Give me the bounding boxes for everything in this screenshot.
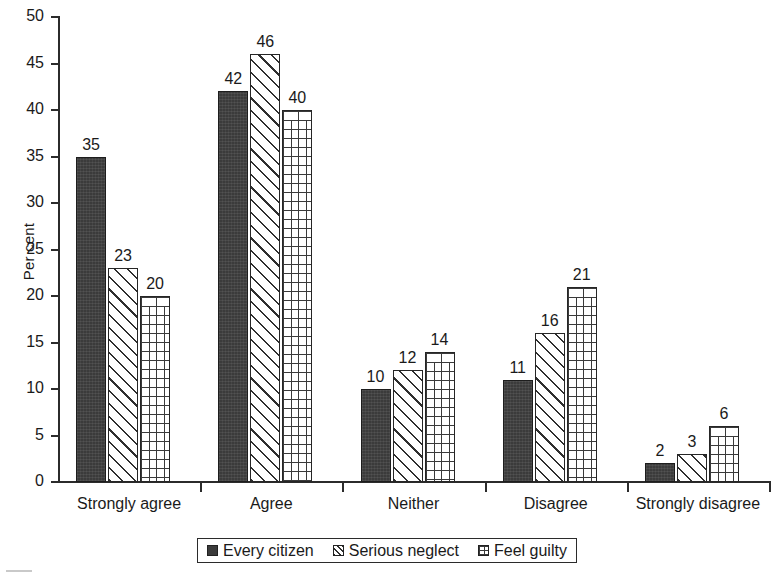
bar — [76, 157, 106, 483]
bar — [250, 54, 280, 482]
x-tick-mark — [627, 483, 629, 492]
y-tick-label: 25 — [0, 240, 44, 258]
legend-swatch-icon — [478, 545, 489, 556]
x-category-label: Neither — [332, 495, 494, 513]
bar-value-label: 20 — [130, 275, 180, 293]
bar-value-label: 21 — [557, 266, 607, 284]
chart-legend: Every citizenSerious neglectFeel guilty — [197, 538, 577, 563]
plot-area: 352320424640101214111621236 — [58, 17, 769, 482]
bar — [645, 463, 675, 482]
bar — [282, 110, 312, 482]
y-tick-label: 30 — [0, 193, 44, 211]
bar-value-label: 46 — [240, 33, 290, 51]
bar — [425, 352, 455, 482]
legend-swatch-icon — [207, 545, 218, 556]
bar — [108, 268, 138, 482]
x-category-label: Strongly disagree — [617, 495, 775, 513]
legend-item: Every citizen — [207, 542, 314, 560]
bar — [677, 454, 707, 482]
x-tick-mark — [769, 483, 771, 492]
legend-swatch-icon — [333, 545, 344, 556]
x-tick-mark — [342, 483, 344, 492]
bar-value-label: 23 — [98, 247, 148, 265]
bar — [535, 333, 565, 482]
legend-label: Feel guilty — [494, 542, 567, 560]
caption-rule — [6, 570, 32, 572]
x-category-label: Agree — [190, 495, 352, 513]
x-category-label: Strongly agree — [48, 495, 210, 513]
y-tick-label: 45 — [0, 54, 44, 72]
bar — [140, 296, 170, 482]
x-category-label: Disagree — [475, 495, 637, 513]
x-tick-mark — [485, 483, 487, 492]
bar-value-label: 6 — [699, 405, 749, 423]
y-tick-label: 0 — [0, 472, 44, 490]
y-tick-label: 5 — [0, 426, 44, 444]
y-tick-label: 35 — [0, 147, 44, 165]
bar — [393, 370, 423, 482]
y-tick-label: 50 — [0, 7, 44, 25]
bar — [218, 91, 248, 482]
legend-item: Serious neglect — [333, 542, 459, 560]
legend-item: Feel guilty — [478, 542, 567, 560]
legend-label: Every citizen — [223, 542, 314, 560]
bar-value-label: 40 — [272, 89, 322, 107]
y-tick-label: 10 — [0, 379, 44, 397]
x-tick-mark — [200, 483, 202, 492]
bar — [361, 389, 391, 482]
bar-chart: Per cent 05101520253035404550 3523204246… — [0, 0, 775, 584]
bar — [503, 380, 533, 482]
y-tick-label: 40 — [0, 100, 44, 118]
legend-label: Serious neglect — [349, 542, 459, 560]
y-tick-label: 20 — [0, 286, 44, 304]
bar-value-label: 14 — [415, 331, 465, 349]
y-tick-label: 15 — [0, 333, 44, 351]
bar — [709, 426, 739, 482]
bar — [567, 287, 597, 482]
bar-value-label: 35 — [66, 136, 116, 154]
